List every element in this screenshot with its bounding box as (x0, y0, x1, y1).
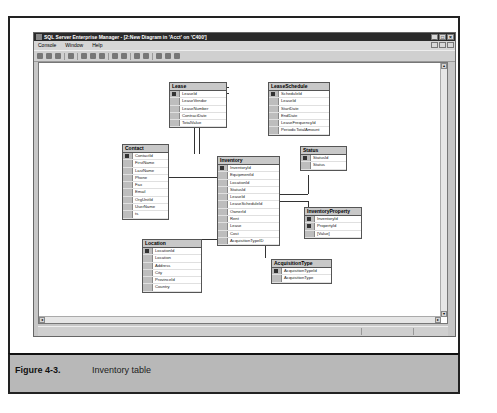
column-row[interactable]: LeaseId (218, 194, 279, 201)
column-row[interactable]: [Value] (305, 231, 361, 238)
menu-help[interactable]: Help (92, 41, 102, 50)
scroll-down-button[interactable]: ▾ (441, 311, 447, 317)
column-row[interactable]: InventoryId (305, 216, 361, 223)
column-row[interactable]: Location (143, 255, 201, 262)
column-row[interactable]: LeaseVendor (170, 98, 226, 105)
scroll-right-button[interactable]: ▸ (435, 317, 441, 323)
column-row[interactable]: Email (123, 189, 168, 196)
column-row[interactable]: ProvinceId (143, 277, 201, 284)
column-name: City (153, 270, 162, 276)
zoom-value-icon[interactable] (143, 53, 149, 59)
menu-window[interactable]: Window (65, 41, 83, 50)
menu-console[interactable]: Console (38, 41, 56, 50)
close-button[interactable]: × (447, 34, 454, 40)
table-status[interactable]: Status StatusId Status (300, 146, 347, 171)
mdi-restore-button[interactable] (439, 42, 446, 48)
column-row[interactable]: EquipmentId (218, 172, 279, 179)
column-name: InventoryId (228, 165, 251, 171)
column-row[interactable]: ts (123, 211, 168, 218)
relationship-contact-inventory[interactable] (169, 177, 217, 178)
column-row[interactable]: LeaseId (170, 91, 226, 98)
new-table-icon[interactable] (112, 53, 118, 59)
minimize-button[interactable]: _ (431, 34, 438, 40)
column-row[interactable]: ContactId (123, 153, 168, 160)
column-row[interactable]: OwnerId (218, 209, 279, 216)
print-icon[interactable] (55, 53, 61, 59)
column-row[interactable]: InventoryId (218, 165, 279, 172)
horizontal-scrollbar[interactable]: ◂ ▸ (39, 316, 441, 323)
table-contact[interactable]: Contact ContactId FirstName LastName Pho… (122, 144, 169, 220)
diagram-canvas[interactable]: Lease LeaseId LeaseVendor LeaseNumber Co… (38, 62, 448, 324)
table-leaseschedule[interactable]: LeaseSchedule ScheduleId LeaseId StartDa… (268, 82, 330, 136)
row-selector (218, 209, 228, 215)
copy-icon[interactable] (90, 53, 96, 59)
figure-caption: Figure 4-3. Inventory table (8, 353, 460, 394)
column-row[interactable]: Lease (218, 223, 279, 230)
column-row[interactable]: LeaseFrequencyId (269, 120, 329, 127)
save-icon[interactable] (37, 53, 43, 59)
column-row[interactable]: Country (143, 284, 201, 291)
column-name: LocationId (228, 180, 249, 186)
add-table-icon[interactable] (121, 53, 127, 59)
column-row[interactable]: TotalValue (170, 120, 226, 127)
table-lease[interactable]: Lease LeaseId LeaseVendor LeaseNumber Co… (169, 82, 227, 128)
layout-icon[interactable] (68, 53, 74, 59)
column-row[interactable]: UserName (123, 204, 168, 211)
help-icon[interactable] (156, 53, 162, 59)
column-row[interactable]: LeaseScheduleId (218, 201, 279, 208)
column-row[interactable]: StatusId (301, 155, 346, 162)
column-row[interactable]: AcquisitionType (272, 275, 331, 282)
row-selector (123, 160, 133, 166)
column-row[interactable]: Cost (218, 231, 279, 238)
column-row[interactable]: PeriodicTotalAmount (269, 127, 329, 134)
maximize-button[interactable]: □ (439, 34, 446, 40)
zoom-icon[interactable] (134, 53, 140, 59)
column-row[interactable]: Status (301, 162, 346, 169)
scroll-left-button[interactable]: ◂ (39, 317, 45, 323)
vertical-scrollbar[interactable]: ▴ ▾ (440, 63, 447, 317)
mdi-minimize-button[interactable] (431, 42, 438, 48)
column-name: ContactId (133, 153, 153, 159)
row-selector (170, 98, 180, 104)
column-row[interactable]: LeaseNumber (170, 106, 226, 113)
table-inventory[interactable]: Inventory InventoryId EquipmentId Locati… (217, 156, 280, 246)
relationship-location-inventory[interactable] (202, 239, 217, 240)
arrange-icon[interactable] (165, 53, 171, 59)
row-selector (269, 127, 279, 133)
properties-icon[interactable] (46, 53, 52, 59)
relationship-inventoryproperty-inventory[interactable] (280, 201, 308, 202)
column-row[interactable]: LocationId (218, 180, 279, 187)
column-row[interactable]: OrgUnitId (123, 197, 168, 204)
column-row[interactable]: AcquisitionTypeID (218, 238, 279, 245)
table-location[interactable]: Location LocationId Location Address Cit… (142, 239, 202, 293)
column-row[interactable]: FirstName (123, 160, 168, 167)
cut-icon[interactable] (81, 53, 87, 59)
scroll-up-button[interactable]: ▴ (441, 63, 447, 69)
column-row[interactable]: Rent (218, 216, 279, 223)
column-row[interactable]: PropertyId (305, 223, 361, 230)
column-row[interactable]: StatusId (218, 187, 279, 194)
column-row[interactable]: LastName (123, 168, 168, 175)
mdi-close-button[interactable] (447, 42, 454, 48)
column-row[interactable]: Fax (123, 182, 168, 189)
figure-number: Figure 4-3. (15, 365, 61, 375)
toolbar (34, 50, 455, 62)
column-row[interactable]: AcquisitionTypeId (272, 268, 331, 275)
column-row[interactable]: Phone (123, 175, 168, 182)
column-row[interactable]: StartDate (269, 106, 329, 113)
paste-icon[interactable] (99, 53, 105, 59)
column-row[interactable]: City (143, 270, 201, 277)
relationship-icon[interactable] (174, 53, 180, 59)
column-row[interactable]: LeaseId (269, 98, 329, 105)
column-row[interactable]: LocationId (143, 248, 201, 255)
relationship-status-inventory[interactable] (280, 194, 308, 195)
row-selector (218, 238, 228, 244)
table-acquisitiontype[interactable]: AcquisitionType AcquisitionTypeId Acquis… (271, 259, 332, 284)
relationship-status-inventory-v[interactable] (308, 175, 309, 194)
column-row[interactable]: Address (143, 263, 201, 270)
column-row[interactable]: ScheduleId (269, 91, 329, 98)
menu-bar: Console Window Help (34, 41, 455, 50)
column-row[interactable]: EndDate (269, 113, 329, 120)
table-inventoryproperty[interactable]: InventoryProperty InventoryId PropertyId… (304, 207, 362, 239)
column-row[interactable]: ContractDate (170, 113, 226, 120)
